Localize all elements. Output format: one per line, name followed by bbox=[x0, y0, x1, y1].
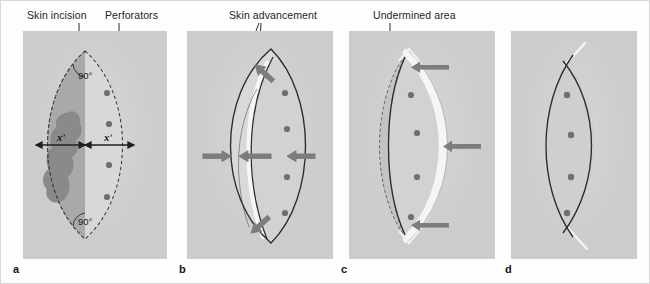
panel-letter-a: a bbox=[13, 263, 19, 275]
perforator-dot bbox=[564, 210, 570, 216]
panel-d bbox=[511, 31, 637, 259]
panel-d-graphic bbox=[511, 31, 637, 259]
panel-letter-d: d bbox=[505, 263, 512, 275]
angle-label-bottom-a: 90° bbox=[78, 216, 93, 227]
perforator-dot bbox=[564, 92, 570, 98]
panel-letter-b: b bbox=[179, 263, 186, 275]
perforator-dot bbox=[408, 214, 414, 220]
label-undermined-area: Undermined area bbox=[373, 9, 456, 21]
closure-tail-bottom-d bbox=[567, 227, 587, 249]
perforator-dot bbox=[282, 210, 288, 216]
angle-label-top-a: 90° bbox=[78, 70, 93, 81]
width-label-right-a: xʹ bbox=[103, 132, 112, 143]
panel-b bbox=[187, 31, 333, 259]
panel-c-graphic bbox=[349, 31, 495, 259]
perforator-dot bbox=[106, 121, 112, 127]
label-perforators: Perforators bbox=[105, 9, 158, 21]
label-skin-advancement: Skin advancement bbox=[229, 9, 317, 21]
perforator-dot bbox=[414, 174, 420, 180]
perforator-dot bbox=[104, 90, 110, 96]
panel-a: 90° 90° xʹ xʹ bbox=[23, 31, 167, 259]
perforator-dot bbox=[568, 132, 574, 138]
lens-body-d bbox=[547, 61, 595, 229]
width-label-left-a: xʹ bbox=[56, 132, 65, 143]
perforator-dot bbox=[104, 194, 110, 200]
label-skin-incision: Skin incision bbox=[27, 9, 87, 21]
arrow-right-left-side-b bbox=[203, 151, 231, 162]
perforator-dot bbox=[568, 174, 574, 180]
panel-a-graphic: 90° 90° xʹ xʹ bbox=[23, 31, 167, 259]
figure-keystone-flap: Skin incision Perforators Skin advanceme… bbox=[0, 0, 650, 284]
perforator-dot bbox=[282, 90, 288, 96]
arrow-left-middle-c bbox=[443, 141, 481, 153]
perforator-dot bbox=[284, 126, 290, 132]
perforator-dot bbox=[106, 162, 112, 168]
perforator-dot bbox=[414, 130, 420, 136]
panel-b-graphic bbox=[187, 31, 333, 259]
perforator-dot bbox=[408, 92, 414, 98]
panel-c bbox=[349, 31, 495, 259]
perforator-dot bbox=[284, 174, 290, 180]
panel-letter-c: c bbox=[341, 263, 347, 275]
